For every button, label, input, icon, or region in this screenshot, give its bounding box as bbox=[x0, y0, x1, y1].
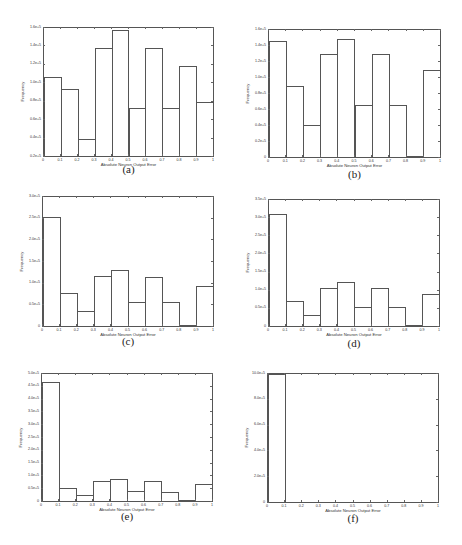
y-tick-label: 2.5e+5 bbox=[29, 215, 40, 219]
x-tick-mark bbox=[195, 499, 196, 501]
x-tick-mark bbox=[41, 373, 42, 375]
x-tick-mark bbox=[285, 199, 286, 201]
y-tick-mark bbox=[268, 253, 270, 254]
y-tick-mark bbox=[43, 45, 45, 46]
y-tick-label: 1.0e+5 bbox=[30, 80, 41, 84]
histogram-bar bbox=[371, 288, 389, 326]
x-tick-mark bbox=[285, 155, 286, 157]
x-tick-mark bbox=[354, 199, 355, 201]
histogram-bar bbox=[320, 54, 338, 157]
histogram-bar bbox=[43, 217, 61, 326]
subfigure-caption: (d) bbox=[339, 337, 369, 349]
histogram-panel-a: 0.2e+50.4e+50.6e+50.8e+51.0e+51.2e+51.4e… bbox=[0, 0, 231, 180]
y-tick-mark bbox=[211, 218, 213, 219]
y-tick-label: 0.2e+5 bbox=[30, 154, 41, 158]
histogram-panel-f: 02.0e+54.0e+56.0e+58.0e+510.0e+500.10.20… bbox=[231, 360, 462, 545]
y-tick-label: 1.2e+5 bbox=[30, 61, 41, 65]
y-tick-mark bbox=[436, 399, 438, 400]
x-tick-mark bbox=[178, 373, 179, 375]
y-tick-mark bbox=[211, 119, 213, 120]
x-tick-mark bbox=[127, 499, 128, 501]
y-tick-label: 5.0e+5 bbox=[28, 371, 39, 375]
y-tick-label: 0 bbox=[264, 324, 266, 328]
x-tick-mark bbox=[268, 199, 269, 201]
histogram-bar bbox=[162, 302, 180, 326]
y-tick-label: 1.5e+5 bbox=[29, 259, 40, 263]
y-tick-mark bbox=[211, 156, 213, 157]
x-tick-mark bbox=[213, 27, 214, 29]
x-tick-mark bbox=[371, 199, 372, 201]
x-tick-mark bbox=[422, 324, 423, 326]
y-tick-mark bbox=[268, 93, 270, 94]
x-tick-mark bbox=[43, 154, 44, 156]
x-tick-mark bbox=[354, 324, 355, 326]
x-tick-mark bbox=[284, 373, 285, 375]
y-tick-label: 0.8e+5 bbox=[255, 91, 266, 95]
x-tick-mark bbox=[284, 500, 285, 502]
y-tick-mark bbox=[268, 109, 270, 110]
x-tick-mark bbox=[268, 324, 269, 326]
y-tick-mark bbox=[268, 45, 270, 46]
y-tick-mark bbox=[43, 82, 45, 83]
y-tick-label: 2.0e+5 bbox=[254, 474, 265, 478]
histogram-panel-e: 00.5e+51.0e+51.5e+52.0e+52.5e+53.0e+53.5… bbox=[0, 360, 231, 545]
x-tick-mark bbox=[319, 324, 320, 326]
y-tick-mark bbox=[41, 488, 43, 489]
y-tick-mark bbox=[436, 425, 438, 426]
histogram-bar bbox=[112, 30, 130, 156]
y-tick-label: 1.4e+5 bbox=[30, 43, 41, 47]
y-tick-label: 0 bbox=[263, 500, 265, 504]
histogram-bar bbox=[94, 276, 112, 326]
x-tick-mark bbox=[421, 373, 422, 375]
x-tick-mark bbox=[111, 27, 112, 29]
y-axis-label: Frequency bbox=[245, 248, 250, 278]
x-tick-mark bbox=[440, 155, 441, 157]
y-tick-label: 10.0e+5 bbox=[252, 371, 265, 375]
x-tick-mark bbox=[268, 155, 269, 157]
x-tick-mark bbox=[319, 199, 320, 201]
subfigure-caption: (f) bbox=[338, 512, 368, 524]
y-tick-mark bbox=[267, 476, 269, 477]
y-tick-label: 4.0e+5 bbox=[254, 448, 265, 452]
y-tick-label: 0 bbox=[38, 324, 40, 328]
y-tick-mark bbox=[211, 64, 213, 65]
plot-frame bbox=[43, 27, 214, 157]
subfigure-caption: (e) bbox=[112, 510, 142, 522]
y-tick-mark bbox=[211, 82, 213, 83]
x-tick-mark bbox=[195, 373, 196, 375]
histogram-panel-c: 00.5e+51.0e+51.5e+52.0e+52.5e+53.0e+500.… bbox=[0, 180, 231, 360]
x-tick-mark bbox=[405, 199, 406, 201]
plot-frame bbox=[42, 196, 214, 327]
x-tick-mark bbox=[388, 29, 389, 31]
y-tick-label: 0.5e+5 bbox=[255, 305, 266, 309]
histogram-bar bbox=[145, 48, 163, 156]
histogram-bar bbox=[269, 41, 287, 157]
y-tick-mark bbox=[437, 217, 439, 218]
y-tick-label: 1.6e+5 bbox=[255, 27, 266, 31]
histogram-bar bbox=[372, 54, 390, 157]
x-tick-mark bbox=[388, 324, 389, 326]
x-tick-mark bbox=[406, 155, 407, 157]
y-tick-label: 0.6e+5 bbox=[255, 107, 266, 111]
x-tick-mark bbox=[128, 27, 129, 29]
x-tick-mark bbox=[179, 196, 180, 198]
x-tick-mark bbox=[213, 154, 214, 156]
histogram-bar bbox=[161, 492, 179, 501]
x-tick-mark bbox=[335, 500, 336, 502]
y-tick-mark bbox=[210, 424, 212, 425]
histogram-bar bbox=[95, 48, 113, 156]
y-tick-label: 0.4e+5 bbox=[255, 123, 266, 127]
y-tick-mark bbox=[268, 308, 270, 309]
y-tick-mark bbox=[41, 424, 43, 425]
x-tick-mark bbox=[196, 196, 197, 198]
y-tick-mark bbox=[41, 411, 43, 412]
x-tick-mark bbox=[94, 154, 95, 156]
y-tick-mark bbox=[42, 326, 44, 327]
y-tick-mark bbox=[267, 399, 269, 400]
y-tick-mark bbox=[438, 61, 440, 62]
x-tick-mark bbox=[76, 196, 77, 198]
y-tick-mark bbox=[43, 138, 45, 139]
y-tick-mark bbox=[210, 488, 212, 489]
x-tick-mark bbox=[337, 155, 338, 157]
histogram-bar bbox=[178, 500, 196, 501]
